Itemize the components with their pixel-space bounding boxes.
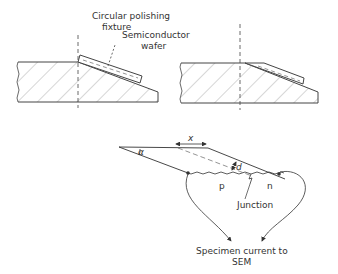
contact-n: [277, 172, 281, 176]
label-junction: Junction: [236, 200, 273, 210]
wafer-leader: [108, 45, 115, 66]
label-alpha: α: [138, 147, 144, 157]
junction-marker: [249, 174, 252, 184]
bevel-section: [119, 144, 305, 241]
bevel-junction-diagram: Circular polishing fixture Semiconductor…: [0, 0, 338, 274]
label-x: x: [187, 133, 194, 143]
label-wafer-1: Semiconductor: [122, 30, 190, 40]
label-output-1: Specimen current to: [196, 246, 288, 256]
label-d: d: [236, 162, 242, 172]
label-n: n: [267, 181, 273, 191]
right-polishing-fixture: [180, 24, 318, 110]
label-p: p: [219, 181, 225, 191]
label-wafer-2: wafer: [141, 41, 167, 51]
label-output-2: SEM: [232, 257, 251, 267]
left-polishing-fixture: [17, 35, 158, 108]
label-fixture-1: Circular polishing: [92, 11, 170, 21]
